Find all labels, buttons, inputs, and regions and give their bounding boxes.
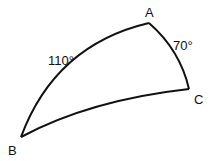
arc-ac: [149, 23, 189, 89]
spherical-triangle-diagram: A 70° C 110° B: [0, 0, 219, 161]
vertex-b-label: B: [8, 144, 17, 157]
side-ac-label: 70°: [173, 39, 193, 52]
vertex-a-label: A: [145, 6, 154, 19]
arc-ab: [21, 23, 149, 137]
arc-bc: [21, 89, 189, 137]
side-ab-label: 110°: [48, 54, 74, 67]
vertex-c-label: C: [194, 93, 203, 106]
triangle-arcs: [0, 0, 219, 161]
